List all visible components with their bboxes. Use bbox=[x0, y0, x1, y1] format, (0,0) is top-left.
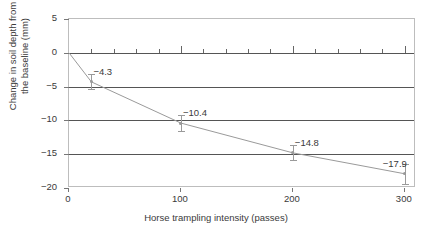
y-tick-label--20: −20 bbox=[23, 182, 57, 192]
error-bar-cap-lower bbox=[88, 89, 95, 90]
x-axis-tick-200 bbox=[292, 188, 293, 192]
data-series: −4.3−10.4−14.8−17.9 bbox=[69, 19, 414, 186]
x-axis-tick-0 bbox=[68, 188, 69, 192]
data-point-label: −17.9 bbox=[383, 158, 407, 169]
series-line bbox=[69, 19, 416, 188]
y-tick-label--10: −10 bbox=[23, 114, 57, 124]
data-point-label: −10.4 bbox=[183, 107, 207, 118]
x-tick-label-200: 200 bbox=[272, 194, 312, 204]
x-axis-title: Horse trampling intensity (passes) bbox=[0, 212, 432, 223]
x-axis-tick-100 bbox=[180, 188, 181, 192]
y-tick-label-0: 0 bbox=[23, 47, 57, 57]
x-tick-label-300: 300 bbox=[384, 194, 424, 204]
chart-figure: Change in soil depth from the baseline (… bbox=[0, 0, 432, 235]
y-axis-title-line1: Change in soil depth from bbox=[7, 2, 18, 110]
plot-area: −4.3−10.4−14.8−17.9 bbox=[68, 18, 415, 187]
data-point-label: −4.3 bbox=[93, 66, 112, 77]
error-bar-cap-lower bbox=[290, 160, 297, 161]
y-tick-label--5: −5 bbox=[23, 81, 57, 91]
error-bar-cap-lower bbox=[402, 184, 409, 185]
y-tick-label--15: −15 bbox=[23, 148, 57, 158]
error-bar-cap-lower bbox=[178, 131, 185, 132]
x-axis-tick-300 bbox=[404, 188, 405, 192]
y-tick-label-5: 5 bbox=[23, 13, 57, 23]
x-tick-label-100: 100 bbox=[160, 194, 200, 204]
x-tick-label-0: 0 bbox=[48, 194, 88, 204]
data-point-label: −14.8 bbox=[295, 137, 319, 148]
